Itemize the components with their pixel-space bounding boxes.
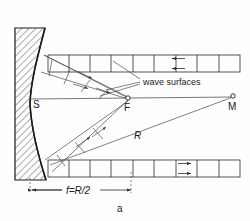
ray-arrow-lower-1 (76, 137, 90, 147)
panel-label-a: a (117, 203, 123, 214)
figure-container: S F M R wave surfaces f=R/2 a (0, 0, 250, 221)
focus-point-marker (126, 96, 130, 100)
wave-grid-bottom (48, 160, 240, 177)
reflected-ray-bundle-lower (45, 100, 128, 172)
radius-line (50, 97, 233, 165)
ray-arrow-upper-3 (96, 88, 110, 93)
ray-arrow-upper-1 (78, 72, 92, 79)
optical-axis (30, 97, 233, 99)
label-focal-length: f=R/2 (66, 185, 91, 196)
label-center-M: M (228, 101, 236, 112)
label-radius-R: R (134, 130, 141, 141)
reflected-ray-bundle-upper (41, 55, 128, 99)
optics-diagram: S F M R wave surfaces f=R/2 a (0, 0, 250, 221)
label-focus-F: F (124, 102, 130, 113)
center-point-marker (231, 94, 235, 98)
wave-grid-top (48, 55, 240, 72)
label-wave-surfaces: wave surfaces (142, 77, 201, 87)
label-vertex-S: S (33, 99, 40, 110)
